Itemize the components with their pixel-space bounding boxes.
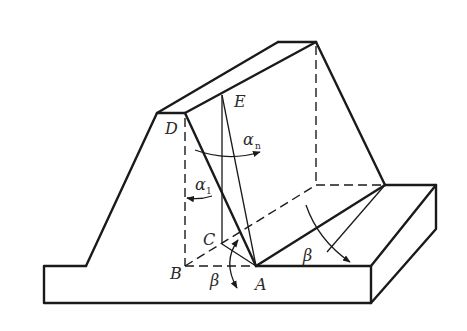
construction-lines: [222, 95, 385, 266]
slope-body: [86, 42, 385, 266]
label-E: E: [233, 92, 246, 111]
beta-left-arc: [230, 240, 238, 288]
label-alpha-n: α: [243, 130, 254, 149]
label-C: C: [203, 230, 215, 249]
label-D: D: [164, 119, 178, 138]
wedge-diagram: D E α n α 1 C B β A β: [0, 0, 467, 331]
label-A: A: [253, 275, 267, 294]
label-alpha-n-sub: n: [255, 141, 261, 151]
label-beta-right: β: [302, 246, 312, 265]
alpha-1-arc: [187, 196, 212, 199]
label-beta-left: β: [209, 271, 219, 290]
label-alpha-1: α: [195, 175, 206, 194]
label-B: B: [169, 264, 182, 283]
labels: D E α n α 1 C B β A β: [164, 92, 312, 294]
base-slab: [44, 185, 436, 303]
label-alpha-1-sub: 1: [206, 186, 212, 196]
